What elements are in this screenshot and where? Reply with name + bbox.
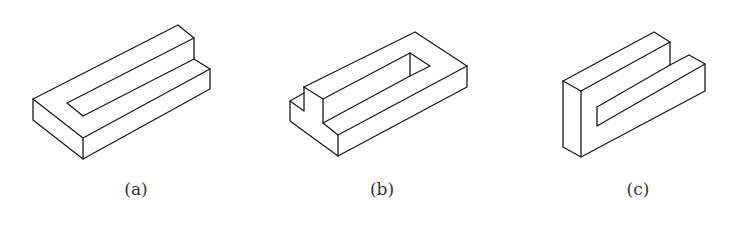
caption-a: (a) xyxy=(106,179,166,199)
panel-c-drawing xyxy=(563,32,705,157)
edge-line xyxy=(563,32,705,157)
panel-b-drawing xyxy=(290,32,467,156)
edge-line xyxy=(563,42,670,91)
edge-line xyxy=(290,87,304,111)
edge-line xyxy=(290,32,467,156)
caption-c: (c) xyxy=(608,179,668,199)
panel-a-drawing xyxy=(33,25,210,159)
edge-line xyxy=(33,25,210,159)
caption-b: (b) xyxy=(352,179,412,199)
edge-line xyxy=(323,53,430,123)
